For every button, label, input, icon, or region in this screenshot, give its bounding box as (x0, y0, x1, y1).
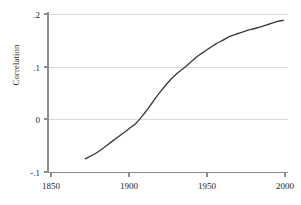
chart-plot: .2 .1 0 -.1 1850 1900 1950 2000 (0, 0, 301, 205)
x-tick-labels: 1850 1900 1950 2000 (42, 181, 295, 191)
correlation-line-series (85, 20, 283, 159)
x-tick-label-1850: 1850 (42, 181, 61, 191)
x-tick-label-2000: 2000 (276, 181, 295, 191)
axis-lines (48, 12, 288, 173)
x-tick-label-1900: 1900 (120, 181, 139, 191)
y-tick-label-0.2: .2 (33, 10, 40, 20)
x-tick-label-1950: 1950 (198, 181, 217, 191)
gridlines (48, 14, 288, 172)
y-tick-label--0.1: -.1 (30, 168, 40, 178)
y-tick-label-0: 0 (36, 115, 41, 125)
y-tick-labels: .2 .1 0 -.1 (30, 10, 40, 178)
chart-container: Correlation .2 .1 0 -.1 (0, 0, 301, 205)
y-tick-marks (44, 14, 48, 172)
y-tick-label-0.1: .1 (33, 63, 40, 73)
